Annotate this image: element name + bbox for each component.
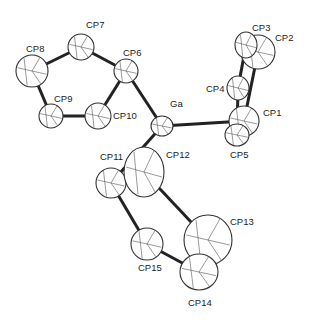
atom-cp10 (85, 103, 111, 129)
atom-label-cp5: CP5 (230, 150, 248, 160)
atom-label-cp11: CP11 (100, 152, 123, 162)
atom-cp15 (131, 228, 163, 260)
atom-label-cp2: CP2 (275, 33, 293, 43)
atom-ga (151, 116, 173, 136)
atoms-layer (16, 32, 275, 290)
atom-label-ga: Ga (170, 99, 183, 109)
atom-cp14 (180, 254, 218, 290)
atom-cp12 (124, 147, 164, 197)
atom-label-cp14: CP14 (188, 298, 212, 308)
atom-label-cp15: CP15 (138, 263, 162, 273)
molecular-structure-diagram: GaCP1CP2CP3CP4CP5CP6CP7CP8CP9CP10CP11CP1… (0, 0, 309, 320)
atom-label-cp6: CP6 (123, 48, 141, 58)
atom-cp4 (227, 76, 249, 100)
atom-cp5 (225, 124, 249, 146)
atom-label-cp1: CP1 (263, 108, 281, 118)
atom-label-cp8: CP8 (26, 44, 44, 54)
atom-cp3 (235, 32, 257, 58)
atom-label-cp13: CP13 (230, 217, 254, 227)
atom-label-cp12: CP12 (166, 150, 190, 160)
atom-label-cp7: CP7 (86, 20, 104, 30)
atom-label-cp9: CP9 (54, 94, 72, 104)
atom-label-cp10: CP10 (113, 111, 137, 121)
atom-cp6 (114, 59, 138, 83)
atom-label-cp4: CP4 (206, 84, 224, 94)
atom-cp9 (39, 104, 63, 128)
atom-label-cp3: CP3 (252, 23, 270, 33)
atom-cp8 (16, 55, 48, 87)
atom-cp7 (68, 34, 94, 60)
atom-cp11 (96, 168, 126, 198)
